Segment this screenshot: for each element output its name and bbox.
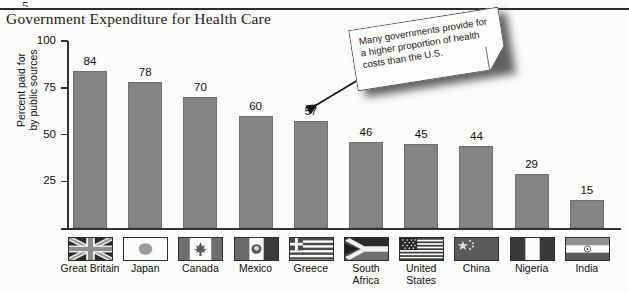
bar-value-label: 60 [229, 100, 283, 112]
flag-united-states-icon [399, 237, 444, 261]
bar[interactable] [294, 121, 328, 228]
x-axis-line [61, 228, 621, 230]
bar[interactable] [128, 82, 162, 228]
bar-value-label: 45 [394, 128, 448, 140]
y-axis-tick [61, 40, 68, 42]
bar-value-label: 78 [118, 66, 172, 78]
y-axis-tick [61, 134, 68, 136]
bar-chart: 100755025 Percent paid for by public sou… [0, 0, 629, 292]
bar[interactable] [515, 174, 549, 228]
flag-china-icon [454, 237, 499, 261]
y-axis-label-line1: Percent paid for [15, 15, 27, 165]
bar-value-label: 44 [449, 130, 503, 142]
y-axis-tick-label: 25 [16, 174, 56, 186]
bar[interactable] [349, 142, 383, 228]
flag-south-africa-icon [344, 237, 389, 261]
bar[interactable] [570, 200, 604, 228]
bar-value-label: 70 [173, 81, 227, 93]
figure-container: 5 Government Expenditure for Health Care… [0, 0, 629, 292]
bar-value-label: 46 [339, 126, 393, 138]
flag-great-britain-icon [68, 237, 113, 261]
y-axis-label-line2: by public sources [27, 15, 39, 165]
category-label-line: India [554, 263, 620, 275]
flag-japan-icon [123, 237, 168, 261]
category-label: India [554, 263, 620, 275]
bar-value-label: 84 [63, 55, 117, 67]
y-axis-tick [61, 181, 68, 183]
bar[interactable] [459, 146, 493, 228]
bar-value-label: 29 [505, 158, 559, 170]
bar[interactable] [183, 97, 217, 228]
category-label-line: States [388, 275, 454, 287]
y-axis-label: Percent paid for by public sources [15, 15, 39, 165]
flag-greece-icon [289, 237, 334, 261]
flag-canada-icon [178, 237, 223, 261]
bar-value-label: 15 [560, 184, 614, 196]
bar[interactable] [73, 71, 107, 228]
y-axis-tick [61, 87, 68, 89]
flag-nigeria-icon [510, 237, 555, 261]
flag-india-icon [565, 237, 610, 261]
bar[interactable] [404, 144, 438, 228]
flag-mexico-icon [234, 237, 279, 261]
bar[interactable] [239, 116, 273, 228]
